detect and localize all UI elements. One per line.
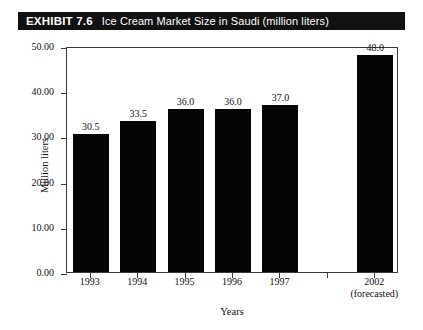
bar-value-label: 48.0 — [367, 42, 385, 53]
y-axis-labels: 0.0010.0020.0030.0040.0050.00 — [0, 47, 62, 273]
bar[interactable] — [120, 121, 156, 272]
x-axis-category-main: 1996 — [222, 276, 242, 287]
x-axis-category-label: 1995 — [175, 276, 195, 288]
bar[interactable] — [262, 105, 298, 272]
bar-value-label: 30.5 — [82, 121, 100, 132]
x-axis-title: Years — [66, 306, 398, 317]
bar-slot: 48.0 — [352, 48, 399, 272]
bar[interactable] — [168, 109, 204, 272]
y-axis-tick-label: 0.00 — [37, 268, 55, 278]
exhibit-title-bar: EXHIBIT 7.6 Ice Cream Market Size in Sau… — [18, 12, 405, 30]
plot-area: 30.533.536.036.037.048.0 — [67, 48, 397, 272]
x-axis-category-label: 1994 — [127, 276, 147, 288]
x-axis-category-main: 2002 — [364, 276, 384, 287]
bar-slot: 36.0 — [209, 48, 256, 272]
x-axis-category-label: 2002(forecasted) — [350, 276, 398, 300]
y-axis-tick-label: 50.00 — [32, 42, 55, 52]
y-axis-title: Million liters — [39, 106, 50, 226]
bar-value-label: 33.5 — [129, 108, 147, 119]
bar-slot: 33.5 — [114, 48, 161, 272]
bar-value-label: 36.0 — [177, 96, 195, 107]
x-axis-labels: 199319941995199619972002(forecasted) — [66, 276, 398, 310]
bar[interactable] — [73, 134, 109, 272]
bar[interactable] — [215, 109, 251, 272]
bar-slot: 37.0 — [257, 48, 304, 272]
x-axis-category-label: 1993 — [80, 276, 100, 288]
exhibit-title-text: Ice Cream Market Size in Saudi (million … — [102, 15, 329, 27]
exhibit-figure: EXHIBIT 7.6 Ice Cream Market Size in Sau… — [0, 0, 423, 330]
x-axis-category-main: 1995 — [175, 276, 195, 287]
x-axis-category-label: 1997 — [269, 276, 289, 288]
exhibit-number-label: EXHIBIT 7.6 — [26, 15, 93, 27]
bar-slot: 30.5 — [67, 48, 114, 272]
x-axis-category-main: 1997 — [269, 276, 289, 287]
bar-slot: 36.0 — [162, 48, 209, 272]
bar-value-label: 37.0 — [272, 92, 290, 103]
bar-slot-empty — [304, 48, 351, 272]
x-axis-category-main: 1993 — [80, 276, 100, 287]
y-axis-tick-label: 40.00 — [32, 87, 55, 97]
bar[interactable] — [357, 55, 393, 272]
x-axis-category-main: 1994 — [127, 276, 147, 287]
x-axis-category-sublabel: (forecasted) — [350, 288, 398, 300]
x-axis-category-label: 1996 — [222, 276, 242, 288]
plot-frame: 30.533.536.036.037.048.0 — [66, 47, 398, 273]
bar-value-label: 36.0 — [224, 96, 242, 107]
